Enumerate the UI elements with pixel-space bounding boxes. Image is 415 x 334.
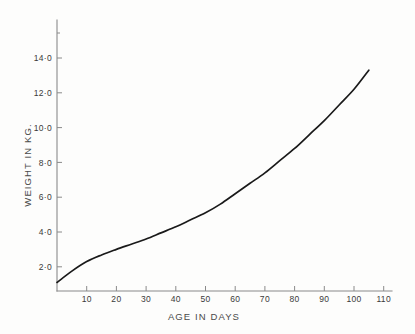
x-tick-label-10: 10 [82, 294, 92, 304]
x-tick-label-50: 50 [200, 294, 210, 304]
x-tick-label-30: 30 [141, 294, 151, 304]
x-tick-label-80: 80 [290, 294, 300, 304]
y-tick-label-14: 14·0 [34, 53, 52, 63]
x-tick-label-90: 90 [319, 294, 329, 304]
y-tick-label-6: 6·0 [39, 192, 52, 202]
x-tick-label-70: 70 [260, 294, 270, 304]
x-axis-title: AGE IN DAYS [168, 311, 240, 322]
y-axis-title: WEIGHT IN KG. [22, 123, 33, 206]
y-tick-label-10: 10·0 [34, 123, 52, 133]
weight-curve [57, 70, 369, 282]
x-tick-label-20: 20 [111, 294, 121, 304]
growth-curve-chart: 2·0 4·0 6·0 8·0 10·0 12·0 14·0 10 20 30 … [0, 0, 415, 334]
x-tick-label-40: 40 [171, 294, 181, 304]
y-tick-label-4: 4·0 [39, 227, 52, 237]
x-tick-label-110: 110 [376, 294, 390, 304]
y-tick-label-2: 2·0 [39, 262, 52, 272]
x-tick-label-100: 100 [346, 294, 361, 304]
y-tick-label-12: 12·0 [34, 88, 52, 98]
y-tick-label-8: 8·0 [39, 158, 52, 168]
chart-page: 2·0 4·0 6·0 8·0 10·0 12·0 14·0 10 20 30 … [0, 0, 415, 334]
x-axis-ticks [87, 286, 384, 291]
y-axis-ticks [57, 33, 62, 267]
x-tick-label-60: 60 [230, 294, 240, 304]
